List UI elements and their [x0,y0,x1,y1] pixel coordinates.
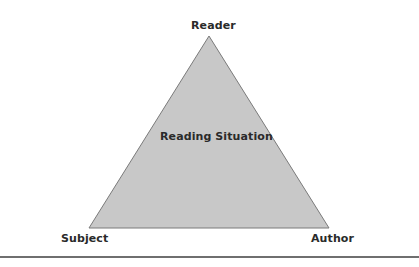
vertex-label-author: Author [311,232,354,245]
horizontal-divider [0,256,419,258]
center-label: Reading Situation [160,130,273,143]
vertex-label-subject: Subject [61,232,108,245]
reading-situation-diagram: Reader Reading Situation Subject Author [0,0,419,267]
vertex-label-reader: Reader [191,19,236,32]
